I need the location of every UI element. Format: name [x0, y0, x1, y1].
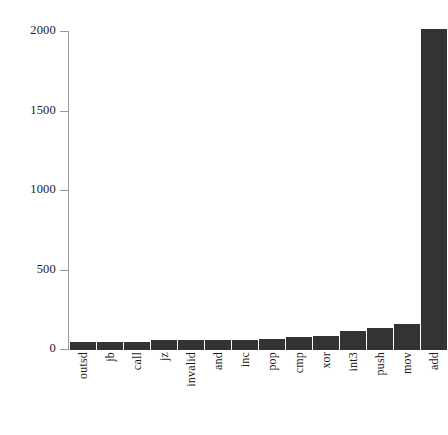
bar-slot	[151, 20, 177, 350]
bar-slot	[259, 20, 285, 350]
bar-slot	[313, 20, 339, 350]
bar[interactable]	[340, 331, 366, 350]
bar[interactable]	[70, 342, 96, 350]
x-axis-tick-label-slot: inc	[232, 352, 258, 432]
bar-slot	[421, 20, 447, 350]
bar-slot	[367, 20, 393, 350]
x-axis-tick-label-slot: mov	[394, 352, 420, 432]
x-axis-tick-label: outsd	[77, 352, 89, 379]
x-axis-tick-label: call	[131, 352, 143, 370]
bar[interactable]	[178, 340, 204, 350]
bar[interactable]	[232, 340, 258, 350]
bar-slot	[286, 20, 312, 350]
bar[interactable]	[421, 29, 447, 350]
x-axis-tick-label-slot: xor	[313, 352, 339, 432]
y-axis-tick	[60, 111, 68, 112]
x-axis-tick-label: xor	[320, 352, 332, 369]
x-axis-tick-label-slot: jz	[151, 352, 177, 432]
bar[interactable]	[259, 339, 285, 350]
bar[interactable]	[313, 336, 339, 350]
x-axis-tick-label: pop	[266, 352, 278, 371]
bar[interactable]	[205, 340, 231, 350]
bar-slot	[97, 20, 123, 350]
y-axis-tick	[60, 190, 68, 191]
bar-slot	[70, 20, 96, 350]
bar-slot	[394, 20, 420, 350]
y-axis-tick-label: 500	[4, 263, 56, 276]
x-axis-tick-label-slot: jb	[97, 352, 123, 432]
y-axis-tick-labels: 2000150010005000	[0, 0, 56, 435]
x-axis-tick-label: add	[428, 352, 440, 370]
plot-area	[69, 20, 448, 350]
bar-slot	[340, 20, 366, 350]
x-axis-tick-label: jz	[158, 352, 170, 361]
x-axis-tick-label: invalid	[185, 352, 197, 387]
y-axis-tick-label: 1500	[4, 104, 56, 117]
x-axis-tick-label-slot: invalid	[178, 352, 204, 432]
x-axis-tick-label-slot: outsd	[70, 352, 96, 432]
bar-slot	[178, 20, 204, 350]
bar-slot	[232, 20, 258, 350]
x-axis-tick-label: jb	[104, 352, 116, 362]
x-axis-tick-label-slot: int3	[340, 352, 366, 432]
x-axis-tick-label: push	[374, 352, 386, 375]
x-axis-tick-label-slot: pop	[259, 352, 285, 432]
bar[interactable]	[97, 342, 123, 350]
bar[interactable]	[286, 337, 312, 350]
y-axis-tick	[60, 349, 68, 350]
x-axis-tick-labels: outsdjbcalljzinvalidandincpopcmpxorint3p…	[69, 352, 448, 435]
y-axis-tick-label: 0	[4, 342, 56, 355]
bar-chart: 2000150010005000 outsdjbcalljzinvalidand…	[0, 0, 448, 435]
x-axis-tick-label-slot: call	[124, 352, 150, 432]
bar-slot	[124, 20, 150, 350]
x-axis-tick-label-slot: push	[367, 352, 393, 432]
x-axis-tick-label: mov	[401, 352, 413, 374]
x-axis-tick-label: inc	[239, 352, 251, 367]
bar[interactable]	[151, 340, 177, 350]
x-axis-tick-label-slot: and	[205, 352, 231, 432]
y-axis-tick	[60, 31, 68, 32]
x-axis-tick-label: and	[212, 352, 224, 370]
y-axis-tick-label: 1000	[4, 183, 56, 196]
bar-slot	[205, 20, 231, 350]
bar[interactable]	[124, 342, 150, 350]
x-axis-tick-label: cmp	[293, 352, 305, 373]
x-axis-tick-label: int3	[347, 352, 359, 371]
x-axis-tick-label-slot: cmp	[286, 352, 312, 432]
y-axis-tick	[60, 270, 68, 271]
y-axis-tick-label: 2000	[4, 24, 56, 37]
bar[interactable]	[367, 328, 393, 350]
bar[interactable]	[394, 324, 420, 350]
x-axis-tick-label-slot: add	[421, 352, 447, 432]
